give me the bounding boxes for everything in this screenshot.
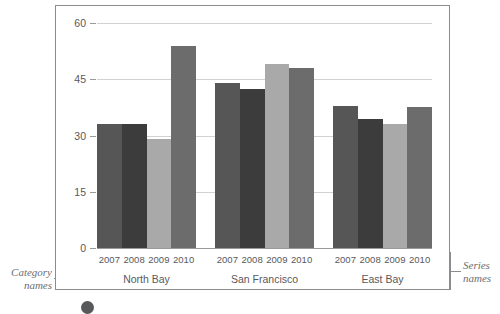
bar [333,106,358,249]
bar [122,124,147,248]
y-axis-tick-label: 60 [74,17,86,29]
y-axis-tick-label: 15 [74,186,86,198]
series-names-leader-tick [450,252,451,290]
x-axis-category-label: North Bay [123,273,170,285]
decorative-bullet-icon [81,301,94,314]
y-tick-mark-45 [90,79,96,80]
category-names-annotation: Category names [4,266,52,292]
bar [407,107,432,248]
y-axis-tick-label: 0 [80,242,86,254]
bar-chart-plot-area: 0153045602007200820092010North Bay200720… [97,23,432,248]
x-axis-series-label: 2007 [335,254,356,265]
y-axis-tick-label: 30 [74,130,86,142]
x-axis-series-label: 2010 [409,254,430,265]
y-tick-mark-0 [90,248,96,249]
series-names-annotation-line2: names [463,272,499,285]
x-axis-category-label: San Francisco [231,273,298,285]
bar [289,68,314,248]
x-axis-series-label: 2009 [384,254,405,265]
x-axis-series-label: 2008 [242,254,263,265]
bar [358,119,383,248]
axis-baseline [97,248,432,249]
x-axis-series-label: 2009 [148,254,169,265]
x-axis-series-label: 2007 [99,254,120,265]
y-tick-mark-30 [90,136,96,137]
series-names-annotation: Series names [463,259,499,285]
bar [240,89,265,248]
x-axis-series-label: 2008 [124,254,145,265]
bar [97,124,122,248]
x-axis-series-label: 2009 [266,254,287,265]
gridline-60 [97,23,432,24]
bar [215,83,240,248]
y-tick-mark-15 [90,192,96,193]
bar [147,139,172,248]
category-names-annotation-line2: names [4,279,52,292]
bar [383,124,408,248]
chart-frame: 0153045602007200820092010North Bay200720… [55,5,450,290]
series-names-annotation-line1: Series [463,259,499,272]
x-axis-series-label: 2007 [217,254,238,265]
x-axis-series-label: 2010 [173,254,194,265]
x-axis-series-label: 2008 [360,254,381,265]
y-axis-tick-label: 45 [74,73,86,85]
x-axis-series-label: 2010 [291,254,312,265]
x-axis-category-label: East Bay [361,273,403,285]
y-tick-mark-60 [90,23,96,24]
bar [265,64,290,248]
category-names-annotation-line1: Category [4,266,52,279]
bar [171,46,196,249]
